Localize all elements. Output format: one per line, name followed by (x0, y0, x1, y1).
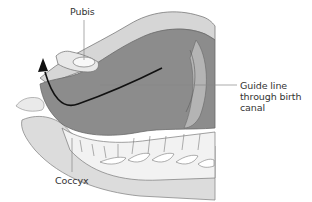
coccyx-label: Coccyx (55, 175, 89, 186)
pubis-label: Pubis (70, 6, 95, 17)
perineum-shape (16, 97, 44, 111)
guide-line-label-line1: Guide line (240, 80, 301, 91)
guide-line-label: Guide line through birth canal (240, 80, 301, 113)
arrowhead-icon (38, 58, 48, 72)
guide-line-label-line2: through birth (240, 91, 301, 102)
guide-line-label-line3: canal (240, 102, 301, 113)
